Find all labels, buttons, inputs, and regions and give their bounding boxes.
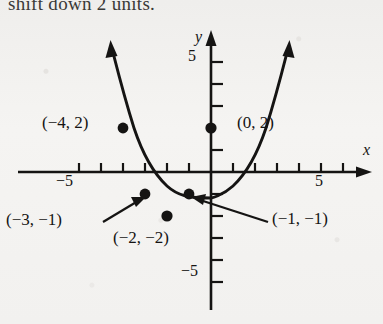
annotation-arrows: [103, 194, 268, 222]
data-point: [205, 122, 216, 133]
x-tick-label-5: 5: [315, 172, 323, 190]
x-tick-label-minus5: −5: [56, 172, 73, 190]
x-axis-label: x: [363, 141, 370, 159]
y-axis-label: y: [195, 28, 202, 46]
data-point: [161, 210, 172, 221]
label-point-minus4-2: (−4, 2): [42, 113, 88, 133]
y-tick-label-5: 5: [188, 47, 196, 65]
label-point-minus3-m1: (−3, −1): [6, 210, 62, 230]
y-tick-label-minus5: −5: [181, 262, 198, 280]
data-point: [118, 123, 129, 134]
label-point-minus1-m1: (−1, −1): [272, 209, 328, 229]
label-point-0-2: (0, 2): [237, 113, 274, 133]
figure-stage: shift down 2 units.: [0, 0, 383, 324]
y-axis: [206, 30, 224, 310]
label-point-minus2-m2: (−2, −2): [113, 228, 169, 248]
